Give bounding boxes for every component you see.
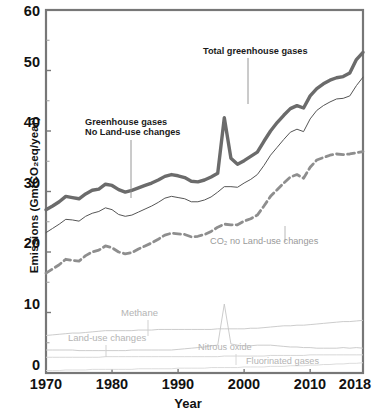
x-tick-2018: 2018 bbox=[332, 376, 376, 392]
x-tick-1980: 1980 bbox=[86, 376, 138, 392]
annotation-ghg-no-landuse-line2: No Land-use changes bbox=[85, 127, 180, 138]
series-co-no-land-use-changes bbox=[46, 152, 363, 274]
x-axis-title: Year bbox=[0, 396, 376, 411]
plot-canvas bbox=[0, 0, 376, 418]
y-tick-0: 0 bbox=[0, 357, 40, 373]
y-tick-60: 60 bbox=[0, 3, 40, 19]
x-tick-2010: 2010 bbox=[284, 376, 336, 392]
annotation-ghg-no-landuse-line1: Greenhouse gases bbox=[85, 117, 167, 128]
x-tick-1990: 1990 bbox=[152, 376, 204, 392]
y-tick-20: 20 bbox=[0, 235, 40, 251]
annotation-land-use-changes: Land-use changes bbox=[68, 333, 146, 344]
annotation-methane: Methane bbox=[121, 308, 158, 319]
y-tick-50: 50 bbox=[0, 54, 40, 70]
x-tick-2000: 2000 bbox=[218, 376, 270, 392]
y-tick-40: 40 bbox=[0, 114, 40, 130]
series-co-other-gases-no-land-use- bbox=[46, 77, 363, 232]
annotation-fluorinated-gases: Fluorinated gases bbox=[246, 356, 319, 367]
annotation-nitrous-oxide: Nitrous oxide bbox=[198, 342, 252, 353]
y-tick-30: 30 bbox=[0, 175, 40, 191]
y-tick-10: 10 bbox=[0, 296, 40, 312]
emissions-line-chart: Emissions (GmtCO₂eq/year) Year 60 50 40 … bbox=[0, 0, 376, 418]
annotation-co2-no-landuse: CO₂ no Land-use changes bbox=[210, 236, 318, 247]
annotation-total-greenhouse-gases: Total greenhouse gases bbox=[203, 46, 308, 57]
x-tick-1970: 1970 bbox=[20, 376, 72, 392]
